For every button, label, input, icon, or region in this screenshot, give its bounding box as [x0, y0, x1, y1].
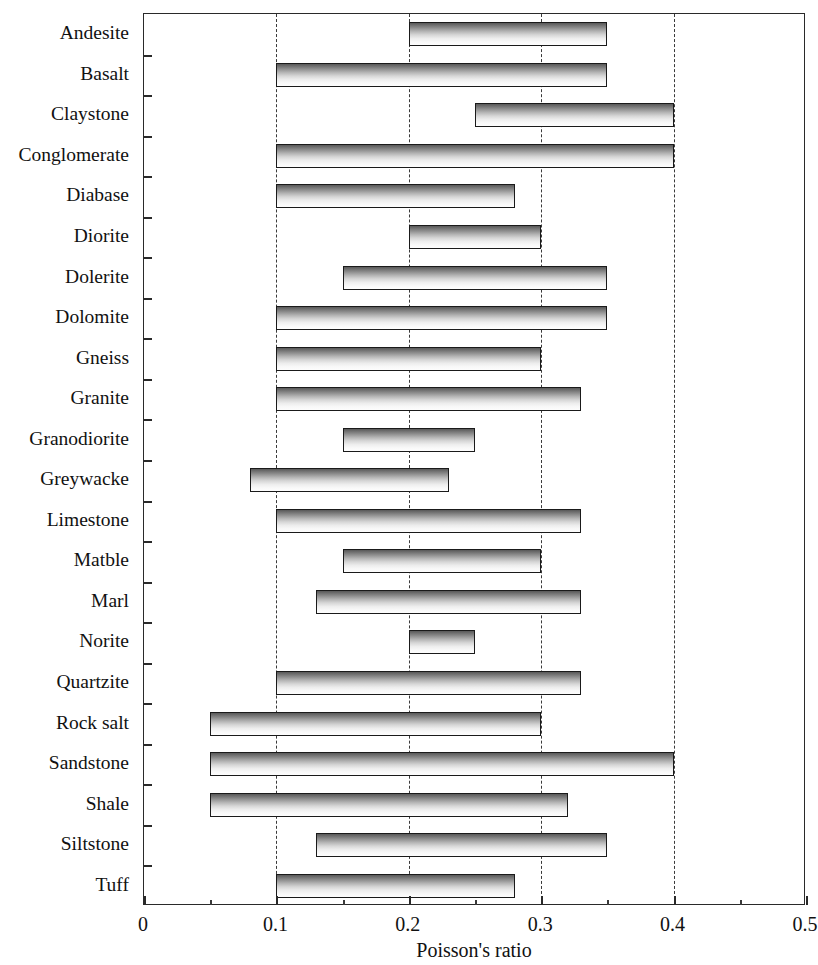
- y-axis-tick: [143, 419, 152, 421]
- y-axis-tick: [143, 217, 152, 219]
- y-axis-tick: [143, 338, 152, 340]
- bar-siltstone: [316, 833, 607, 857]
- y-axis-label-dolerite: Dolerite: [0, 267, 135, 287]
- bar-conglomerate: [276, 144, 673, 168]
- y-axis-label-quartzite: Quartzite: [0, 672, 135, 692]
- y-axis-label-limestone: Limestone: [0, 510, 135, 530]
- x-axis-tick-label-0: 0: [138, 912, 148, 936]
- bar-greywacke: [250, 468, 449, 492]
- x-axis-tick-major: [674, 896, 676, 905]
- x-axis-tick-label-0-4: 0.4: [660, 912, 685, 936]
- y-axis-label-rock-salt: Rock salt: [0, 713, 135, 733]
- gridline-0-4: [674, 14, 675, 904]
- y-axis-label-tuff: Tuff: [0, 875, 135, 895]
- bar-diabase: [276, 184, 514, 208]
- y-axis-tick: [143, 501, 152, 503]
- x-axis-tick-major: [541, 896, 543, 905]
- y-axis-tick: [143, 865, 152, 867]
- bar-granite: [276, 387, 581, 411]
- x-axis-tick-minor: [343, 900, 345, 905]
- x-axis-tick-major: [276, 896, 278, 905]
- bar-marl: [316, 590, 581, 614]
- y-axis-tick: [143, 622, 152, 624]
- y-axis-tick: [143, 784, 152, 786]
- y-axis-tick: [143, 744, 152, 746]
- y-axis-label-marl: Marl: [0, 591, 135, 611]
- y-axis-label-greywacke: Greywacke: [0, 469, 135, 489]
- y-axis-label-sandstone: Sandstone: [0, 753, 135, 773]
- bar-dolerite: [343, 266, 608, 290]
- x-axis-tick-minor: [210, 900, 212, 905]
- x-axis-tick-label-0-2: 0.2: [395, 912, 420, 936]
- x-axis-tick-major: [409, 896, 411, 905]
- y-axis-label-shale: Shale: [0, 794, 135, 814]
- bar-basalt: [276, 63, 607, 87]
- y-axis-label-basalt: Basalt: [0, 64, 135, 84]
- y-axis-label-granite: Granite: [0, 388, 135, 408]
- x-axis-tick-major: [806, 896, 808, 905]
- x-axis-tick-label-0-3: 0.3: [528, 912, 553, 936]
- x-axis-title: Poisson's ratio: [143, 938, 805, 962]
- y-axis-label-matble: Matble: [0, 550, 135, 570]
- x-axis-tick-minor: [740, 900, 742, 905]
- bar-andesite: [409, 22, 608, 46]
- bar-diorite: [409, 225, 541, 249]
- y-axis-label-claystone: Claystone: [0, 104, 135, 124]
- y-axis-tick: [143, 703, 152, 705]
- bar-rock-salt: [210, 712, 541, 736]
- bar-sandstone: [210, 752, 673, 776]
- y-axis-label-diabase: Diabase: [0, 185, 135, 205]
- bar-dolomite: [276, 306, 607, 330]
- y-axis-tick: [143, 95, 152, 97]
- bar-claystone: [475, 103, 674, 127]
- x-axis-tick-minor: [607, 900, 609, 905]
- y-axis-label-dolomite: Dolomite: [0, 307, 135, 327]
- plot-area: [143, 13, 805, 905]
- x-axis-tick-minor: [475, 900, 477, 905]
- bar-tuff: [276, 874, 514, 898]
- x-axis-tick-label-0-1: 0.1: [263, 912, 288, 936]
- bar-quartzite: [276, 671, 581, 695]
- x-axis-tick-label-0-5: 0.5: [793, 912, 818, 936]
- y-axis-tick: [143, 460, 152, 462]
- y-axis-label-andesite: Andesite: [0, 23, 135, 43]
- x-axis-tick-major: [144, 896, 146, 905]
- y-axis-tick: [143, 663, 152, 665]
- plot-inner: [144, 14, 804, 904]
- y-axis-tick: [143, 379, 152, 381]
- y-axis-label-conglomerate: Conglomerate: [0, 145, 135, 165]
- bar-norite: [409, 630, 475, 654]
- y-axis-label-norite: Norite: [0, 631, 135, 651]
- y-axis-tick: [143, 541, 152, 543]
- y-axis-tick: [143, 136, 152, 138]
- y-axis-tick: [143, 825, 152, 827]
- bar-gneiss: [276, 347, 541, 371]
- bar-limestone: [276, 509, 581, 533]
- y-axis-tick: [143, 257, 152, 259]
- y-axis-tick: [143, 55, 152, 57]
- bar-shale: [210, 793, 567, 817]
- y-axis-label-diorite: Diorite: [0, 226, 135, 246]
- y-axis-category-labels: AndesiteBasaltClaystoneConglomerateDiaba…: [0, 13, 135, 905]
- y-axis-label-gneiss: Gneiss: [0, 348, 135, 368]
- y-axis-tick: [143, 582, 152, 584]
- y-axis-label-siltstone: Siltstone: [0, 834, 135, 854]
- bar-granodiorite: [343, 428, 475, 452]
- y-axis-label-granodiorite: Granodiorite: [0, 429, 135, 449]
- y-axis-tick: [143, 176, 152, 178]
- y-axis-tick: [143, 298, 152, 300]
- bar-matble: [343, 549, 542, 573]
